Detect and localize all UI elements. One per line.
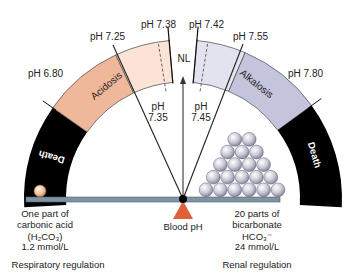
bicarbonate-ball [221, 145, 235, 159]
ph-marker-label: pH 6.80 [28, 68, 63, 79]
ph-marker-label: pH 7.55 [233, 31, 268, 42]
normal-arrow: NL [178, 53, 191, 196]
dashed-ph-value: 7.35 [148, 112, 168, 123]
bicarbonate-ball [228, 183, 242, 197]
bicarbonate-ball-pyramid [199, 133, 285, 197]
bicarbonate-ball [257, 183, 271, 197]
balance-beam [26, 197, 280, 202]
left-line-1: One part of [21, 208, 69, 219]
bicarbonate-ball [271, 183, 285, 197]
arrow-head-icon [180, 76, 186, 84]
pivot-point [179, 195, 187, 203]
bicarbonate-ball [235, 170, 249, 184]
bicarbonate-ball [242, 133, 256, 147]
normal-label: NL [178, 53, 191, 64]
tick-7-80 [308, 98, 321, 107]
carbonic-acid-description: One part of carbonic acid (H₂CO₃) 1.2 mm… [12, 208, 105, 270]
right-line-4: 24 mmol/L [235, 241, 279, 252]
bicarbonate-ball [228, 158, 242, 172]
right-line-1: 20 parts of [235, 208, 280, 219]
respiratory-regulation-label: Respiratory regulation [12, 259, 105, 270]
left-line-4: 1.2 mmol/L [22, 241, 69, 252]
blood-ph-label: Blood pH [163, 221, 202, 232]
bicarbonate-ball [250, 170, 264, 184]
ph-marker-label: pH 7.25 [90, 31, 125, 42]
bicarbonate-ball [199, 183, 213, 197]
bicarbonate-ball [264, 170, 278, 184]
bicarbonate-ball [242, 158, 256, 172]
renal-regulation-label: Renal regulation [222, 259, 291, 270]
bicarbonate-ball [214, 158, 228, 172]
bicarbonate-ball [214, 183, 228, 197]
diagram-canvas: DeathAcidosisAlkalosisDeath pH 6.80pH 7.… [0, 0, 355, 273]
dashed-ph-label: pH [152, 101, 165, 112]
dashed-ph-value: 7.45 [191, 112, 211, 123]
dashed-ph-label: pH [195, 101, 208, 112]
fulcrum-triangle [173, 201, 193, 219]
bicarbonate-ball [221, 170, 235, 184]
left-line-2: carbonic acid [17, 219, 73, 230]
bicarbonate-ball [235, 145, 249, 159]
acid-base-diagram: DeathAcidosisAlkalosisDeath pH 6.80pH 7.… [0, 0, 355, 273]
bicarbonate-ball [250, 145, 264, 159]
ph-marker-label: pH 7.80 [288, 68, 323, 79]
beam-bar [26, 197, 280, 202]
right-line-2: bicarbonate [232, 219, 282, 230]
bicarbonate-ball [242, 183, 256, 197]
bicarbonate-ball [257, 158, 271, 172]
bicarbonate-ball [228, 133, 242, 147]
bicarbonate-ball [206, 170, 220, 184]
ph-marker-label: pH 7.42 [189, 19, 224, 30]
ph-marker-label: pH 7.38 [141, 19, 176, 30]
carbonic-acid-ball [34, 185, 46, 197]
bicarbonate-description: 20 parts of bicarbonate HCO₃⁻ 24 mmol/L … [222, 208, 291, 270]
